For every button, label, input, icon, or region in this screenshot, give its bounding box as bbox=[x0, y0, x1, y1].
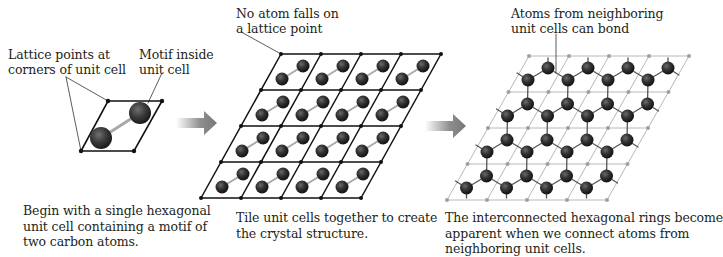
lattice-point bbox=[339, 160, 343, 164]
right-arrow-icon bbox=[176, 111, 217, 135]
label-motif: Motif inside unit cell bbox=[139, 47, 214, 77]
lattice-point bbox=[607, 54, 611, 58]
bonded-hexagonal-lattice bbox=[445, 34, 691, 202]
label-neighboring-bond: Atoms from neighboring unit cells can bo… bbox=[511, 6, 663, 36]
carbon-atom bbox=[601, 98, 614, 111]
callout-line bbox=[66, 77, 108, 101]
carbon-atom bbox=[397, 96, 410, 109]
lattice-point bbox=[566, 126, 570, 130]
lattice-point bbox=[606, 126, 610, 130]
lattice-point bbox=[239, 196, 243, 200]
carbon-atom bbox=[560, 170, 573, 183]
lattice-point bbox=[219, 160, 223, 164]
lattice-point bbox=[379, 88, 383, 92]
carbon-atom bbox=[377, 60, 390, 73]
lattice-point bbox=[79, 149, 83, 153]
carbon-atom bbox=[357, 168, 370, 181]
carbon-atom bbox=[602, 74, 615, 87]
lattice-point bbox=[359, 52, 363, 56]
label-lattice-points: Lattice points at corners of unit cell bbox=[8, 47, 126, 77]
lattice-point bbox=[279, 196, 283, 200]
lattice-point bbox=[299, 160, 303, 164]
carbon-atom bbox=[501, 134, 514, 147]
carbon-atom bbox=[460, 182, 473, 195]
lattice-point bbox=[279, 124, 283, 128]
carbon-atom bbox=[541, 134, 554, 147]
lattice-point bbox=[466, 162, 470, 166]
carbon-atom bbox=[129, 102, 151, 124]
carbon-atom bbox=[581, 110, 594, 123]
carbon-atom bbox=[337, 132, 350, 145]
lattice-point bbox=[239, 124, 243, 128]
lattice-point bbox=[445, 198, 449, 202]
lattice-point bbox=[419, 88, 423, 92]
lattice-point bbox=[132, 149, 136, 153]
lattice-point bbox=[586, 162, 590, 166]
lattice-point bbox=[687, 54, 691, 58]
carbon-atom bbox=[417, 60, 430, 73]
carbon-atom bbox=[622, 62, 635, 75]
carbon-atom bbox=[561, 146, 574, 159]
carbon-atom bbox=[237, 168, 250, 181]
right-arrow-icon bbox=[425, 114, 466, 138]
carbon-atom bbox=[521, 146, 534, 159]
carbon-atom bbox=[662, 62, 675, 75]
carbon-atom bbox=[236, 145, 249, 158]
carbon-atom bbox=[480, 170, 493, 183]
lattice-point bbox=[526, 126, 530, 130]
carbon-atom bbox=[277, 96, 290, 109]
carbon-atom bbox=[542, 62, 555, 75]
lattice-point bbox=[259, 88, 263, 92]
lattice-point bbox=[399, 52, 403, 56]
lattice-point bbox=[359, 124, 363, 128]
lattice-point bbox=[379, 160, 383, 164]
lattice-point bbox=[627, 90, 631, 94]
carbon-atom bbox=[336, 181, 349, 194]
carbon-atom bbox=[317, 96, 330, 109]
caption-single-cell: Begin with a single hexagonal unit cell … bbox=[23, 203, 211, 250]
lattice-point bbox=[319, 196, 323, 200]
carbon-atom bbox=[296, 109, 309, 122]
carbon-atom bbox=[297, 60, 310, 73]
carbon-atom bbox=[90, 127, 112, 149]
carbon-atom bbox=[376, 109, 389, 122]
carbon-atom bbox=[277, 168, 290, 181]
tiled-unit-cells bbox=[199, 33, 443, 200]
lattice-point bbox=[506, 162, 510, 166]
lattice-point bbox=[199, 196, 203, 200]
carbon-atom bbox=[581, 134, 594, 147]
lattice-point bbox=[565, 198, 569, 202]
lattice-point bbox=[359, 196, 363, 200]
carbon-atom bbox=[641, 98, 654, 111]
lattice-point bbox=[567, 54, 571, 58]
callout-line bbox=[148, 73, 162, 103]
carbon-atom bbox=[501, 110, 514, 123]
lattice-point bbox=[279, 52, 283, 56]
carbon-atom bbox=[601, 146, 614, 159]
carbon-atom bbox=[257, 132, 270, 145]
carbon-atom bbox=[216, 181, 229, 194]
carbon-atom bbox=[541, 110, 554, 123]
carbon-atom bbox=[276, 145, 289, 158]
lattice-point bbox=[547, 90, 551, 94]
single-unit-cell bbox=[66, 73, 164, 153]
lattice-point bbox=[486, 126, 490, 130]
carbon-atom bbox=[396, 73, 409, 86]
lattice-point bbox=[587, 90, 591, 94]
lattice-point bbox=[647, 54, 651, 58]
label-no-atom-on-lattice-point: No atom falls on a lattice point bbox=[236, 6, 339, 36]
carbon-atom bbox=[621, 134, 634, 147]
lattice-point bbox=[646, 126, 650, 130]
lattice-point bbox=[507, 90, 511, 94]
lattice-point bbox=[527, 54, 531, 58]
lattice-point bbox=[106, 99, 110, 103]
carbon-atom bbox=[296, 181, 309, 194]
lattice-point bbox=[546, 162, 550, 166]
lattice-point bbox=[299, 88, 303, 92]
carbon-atom bbox=[256, 109, 269, 122]
carbon-atom bbox=[540, 182, 553, 195]
carbon-atom bbox=[580, 182, 593, 195]
carbon-atom bbox=[316, 145, 329, 158]
carbon-atom bbox=[520, 170, 533, 183]
lattice-point bbox=[259, 160, 263, 164]
